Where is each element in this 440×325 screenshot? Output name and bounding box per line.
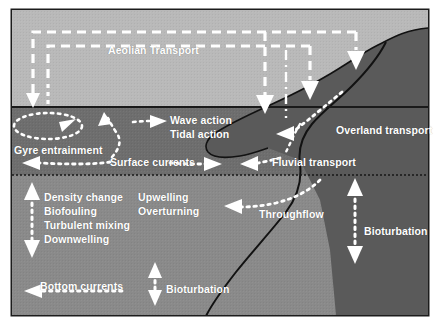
label-downwelling: Downwelling <box>44 233 109 246</box>
label-throughflow: Throughflow <box>259 208 324 221</box>
diagram-canvas <box>0 0 440 325</box>
label-fluvial-transport: Fluvial transport <box>272 156 356 169</box>
label-turbulent-mixing: Turbulent mixing <box>44 219 130 232</box>
wave-action-path <box>133 121 152 122</box>
label-bottom-currents: Bottom currents <box>40 280 123 293</box>
label-wave-action: Wave action <box>170 114 232 127</box>
label-bioturbation-right: Bioturbation <box>364 225 428 238</box>
label-upwelling: Upwelling <box>138 191 188 204</box>
sediment-transport-diagram: Aeolian Transport Wave action Tidal acti… <box>0 0 440 325</box>
label-gyre-entrainment: Gyre entrainment <box>14 144 103 157</box>
label-surface-currents: Surface currents <box>110 156 195 169</box>
label-bioturbation-bottom: Bioturbation <box>166 283 230 296</box>
label-tidal-action: Tidal action <box>170 128 229 141</box>
label-overland-transport: Overland transport <box>336 124 432 137</box>
label-aeolian-transport: Aeolian Transport <box>108 44 199 57</box>
label-density-change: Density change <box>44 191 123 204</box>
label-overturning: Overturning <box>138 205 199 218</box>
label-biofouling: Biofouling <box>44 205 97 218</box>
